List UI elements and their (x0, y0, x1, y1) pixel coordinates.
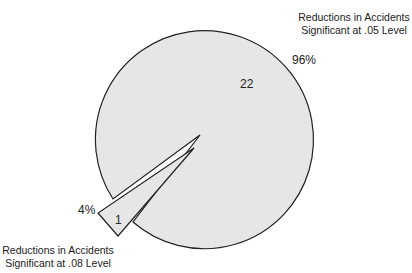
major-percent: 96% (292, 53, 316, 67)
minor-count: 1 (115, 213, 122, 227)
major-count: 22 (240, 77, 253, 91)
major-label-line1: Reductions in Accidents (298, 11, 410, 24)
pie-chart (0, 0, 412, 273)
minor-label-line1: Reductions in Accidents (2, 244, 114, 257)
minor-slice-label: Reductions in Accidents Significant at .… (2, 244, 114, 270)
minor-label-line2: Significant at .08 Level (2, 257, 114, 270)
major-label-line2: Significant at .05 Level (298, 24, 410, 37)
major-slice-label: Reductions in Accidents Significant at .… (298, 11, 410, 37)
minor-percent: 4% (78, 203, 95, 217)
